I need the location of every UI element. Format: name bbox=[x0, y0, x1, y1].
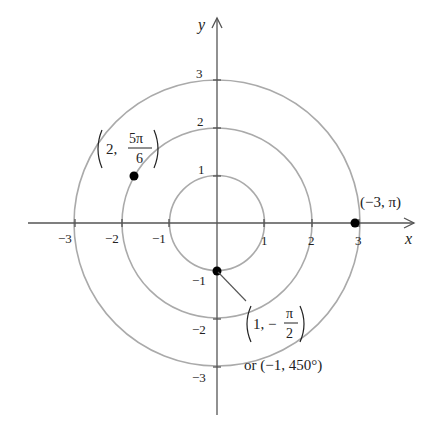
y-axis-label: y bbox=[196, 16, 206, 34]
label-point-2-5pi-6: 2, 5π 6 bbox=[98, 130, 158, 168]
x-tick-label: 1 bbox=[261, 233, 268, 248]
y-tick-label: 3 bbox=[196, 66, 203, 81]
label-point-neg3-pi: (−3, π) bbox=[360, 194, 401, 211]
svg-text:5π: 5π bbox=[129, 131, 143, 146]
svg-text:1, −: 1, − bbox=[253, 316, 276, 332]
svg-text:π: π bbox=[286, 306, 293, 321]
x-axis-label: x bbox=[404, 230, 412, 247]
y-tick-label: 1 bbox=[198, 162, 205, 177]
label-alt-point: or (−1, 450°) bbox=[244, 357, 322, 374]
y-axis bbox=[212, 18, 222, 415]
label-point-1-negpi-2: 1, − π 2 bbox=[247, 306, 304, 342]
x-tick-label: 3 bbox=[355, 233, 362, 248]
x-tick-label: −1 bbox=[152, 231, 166, 246]
y-tick-label: −3 bbox=[192, 370, 206, 385]
y-tick-label: 2 bbox=[197, 114, 204, 129]
svg-text:2: 2 bbox=[286, 326, 293, 341]
x-tick-label: −3 bbox=[58, 231, 72, 246]
leader-line bbox=[218, 272, 246, 301]
polar-diagram: y x −3 −2 −1 1 2 3 3 2 1 −1 −2 −3 2, 5π … bbox=[0, 0, 442, 435]
svg-text:2,: 2, bbox=[106, 141, 117, 157]
x-tick-label: 2 bbox=[308, 233, 315, 248]
point-2-5pi-6 bbox=[130, 172, 139, 181]
x-tick-labels: −3 −2 −1 1 2 3 bbox=[58, 231, 362, 248]
x-tick-label: −2 bbox=[105, 231, 119, 246]
point-neg3-pi bbox=[351, 219, 360, 228]
svg-text:6: 6 bbox=[136, 151, 143, 166]
y-tick-label: −1 bbox=[192, 273, 206, 288]
y-tick-label: −2 bbox=[192, 322, 206, 337]
y-tick-labels: 3 2 1 −1 −2 −3 bbox=[192, 66, 206, 385]
